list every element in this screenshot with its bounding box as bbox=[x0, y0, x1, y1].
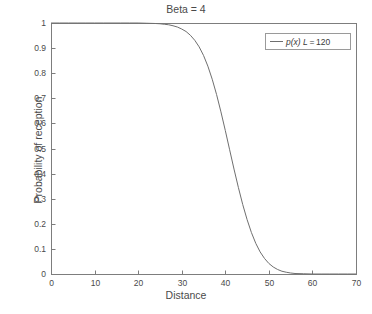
y-axis-ticks bbox=[52, 24, 56, 275]
legend-line-swatch bbox=[270, 41, 283, 42]
legend-entry-label: p(x) L = 120 bbox=[286, 37, 330, 47]
legend-entry: p(x) L = 120 bbox=[266, 34, 350, 49]
chart-figure: Beta = 4 010203040506070 00.10.20.30.40.… bbox=[0, 0, 372, 314]
y-axis-title: Probability of reception bbox=[32, 30, 44, 270]
y-tick-label: 1 bbox=[22, 18, 46, 28]
x-tick-label: 40 bbox=[213, 278, 239, 288]
y-tick-label: 0 bbox=[22, 269, 46, 279]
x-tick-label: 20 bbox=[126, 278, 152, 288]
x-axis-title: Distance bbox=[0, 289, 372, 301]
series-line-p-of-x bbox=[51, 23, 356, 274]
plot-frame bbox=[52, 24, 357, 275]
chart-legend: p(x) L = 120 bbox=[265, 33, 351, 50]
x-tick-label: 60 bbox=[300, 278, 326, 288]
x-tick-label: 70 bbox=[344, 278, 370, 288]
x-tick-label: 50 bbox=[257, 278, 283, 288]
x-tick-label: 30 bbox=[170, 278, 196, 288]
x-tick-label: 10 bbox=[83, 278, 109, 288]
x-tick-label: 0 bbox=[39, 278, 65, 288]
